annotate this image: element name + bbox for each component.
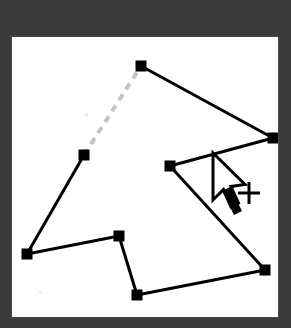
vertex-3-mid-right[interactable] <box>165 161 176 172</box>
vertex-4-bottom-right[interactable] <box>260 265 271 276</box>
edge-5-6[interactable] <box>119 236 137 295</box>
arrow-pointer-icon <box>213 153 245 213</box>
edge-6-7[interactable] <box>27 236 119 254</box>
polygon-vector-layer <box>12 37 278 317</box>
vertex-7-lower-left[interactable] <box>22 249 33 260</box>
vertex-5-bottom[interactable] <box>132 290 143 301</box>
edge-8-1-pending[interactable] <box>84 66 141 155</box>
vertex-8-left-mid[interactable] <box>79 150 90 161</box>
edge-7-8[interactable] <box>27 155 84 254</box>
vertex-6-mid-bottom[interactable] <box>114 231 125 242</box>
edge-1-2[interactable] <box>141 66 273 138</box>
edge-4-5[interactable] <box>137 270 265 295</box>
drawing-canvas[interactable] <box>11 36 279 318</box>
vertex-1-top[interactable] <box>136 61 147 72</box>
screen-root <box>0 0 291 328</box>
vertex-2-right[interactable] <box>268 133 279 144</box>
